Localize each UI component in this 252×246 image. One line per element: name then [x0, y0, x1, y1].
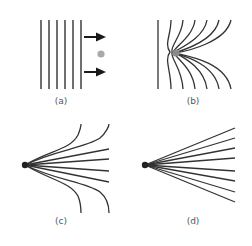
- panel-a-label: (a): [55, 97, 68, 106]
- panel-c-label: (c): [55, 217, 67, 226]
- panel-c: [25, 124, 109, 213]
- diagram-canvas: [0, 0, 252, 246]
- panel-d-label: (d): [187, 217, 200, 226]
- panel-a: [41, 20, 81, 89]
- panel-d: [145, 128, 235, 202]
- panel-b: [158, 20, 231, 89]
- point-source-icon: [142, 162, 148, 168]
- charge-icon: [172, 49, 179, 56]
- point-source-icon: [22, 162, 28, 168]
- arrow-icon-bottom: [84, 68, 106, 77]
- arrow-icon-top: [84, 33, 106, 42]
- particle-icon: [97, 50, 104, 57]
- panel-b-label: (b): [187, 97, 200, 106]
